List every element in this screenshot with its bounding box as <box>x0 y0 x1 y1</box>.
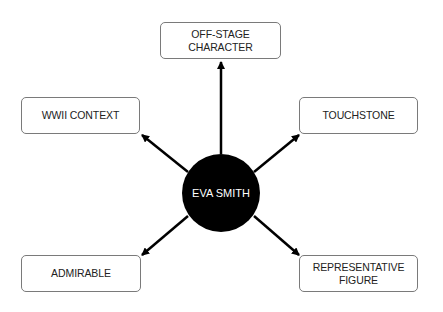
arrow-to-top-right <box>254 135 299 172</box>
node-representative-figure: REPRESENTATIVE FIGURE <box>299 255 418 292</box>
node-wwii-context: WWII CONTEXT <box>21 97 140 134</box>
arrow-to-bottom-left <box>142 216 188 255</box>
node-off-stage-character: OFF-STAGE CHARACTER <box>160 22 281 59</box>
center-label: EVA SMITH <box>192 187 250 199</box>
node-label: OFF-STAGE CHARACTER <box>161 28 280 54</box>
node-label: TOUCHSTONE <box>322 109 394 122</box>
node-label: WWII CONTEXT <box>42 109 120 122</box>
node-label: REPRESENTATIVE FIGURE <box>313 261 405 287</box>
center-node-eva-smith: EVA SMITH <box>182 154 260 232</box>
arrow-to-top-left <box>142 135 188 172</box>
node-label: ADMIRABLE <box>51 267 111 280</box>
node-touchstone: TOUCHSTONE <box>299 97 418 134</box>
node-admirable: ADMIRABLE <box>21 255 141 292</box>
arrow-to-bottom-right <box>254 216 299 255</box>
